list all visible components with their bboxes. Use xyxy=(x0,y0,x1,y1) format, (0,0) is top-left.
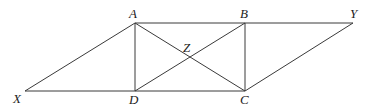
segments xyxy=(25,23,353,91)
segment-XA xyxy=(25,23,135,91)
geometry-diagram: A B Y X D C Z xyxy=(0,0,371,108)
label-Z: Z xyxy=(183,40,191,55)
label-B: B xyxy=(240,6,248,21)
label-X: X xyxy=(12,91,22,106)
label-D: D xyxy=(128,92,139,107)
label-Y: Y xyxy=(350,6,359,21)
label-A: A xyxy=(128,6,137,21)
label-C: C xyxy=(240,92,249,107)
segment-YC xyxy=(245,23,353,91)
point-labels: A B Y X D C Z xyxy=(12,6,359,107)
